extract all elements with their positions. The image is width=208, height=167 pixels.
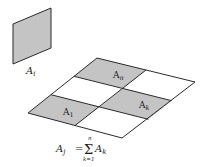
- formula-lower-limit: k=1: [83, 156, 94, 162]
- formula-sum-symbol: Σ: [84, 142, 93, 157]
- formula-upper-limit: n: [88, 135, 92, 141]
- cell-an: [74, 58, 146, 88]
- element-ai-label: Ai: [25, 65, 35, 78]
- formula-rhs: Ak: [94, 143, 106, 156]
- surface-decomposition-diagram: Ai An Ak A1 Aj = Σ n k=1 Ak: [0, 0, 208, 167]
- cell-ak: [100, 88, 172, 119]
- element-ai-patch: [13, 8, 51, 64]
- formula-equals: =: [75, 143, 83, 154]
- formula-lhs: Aj: [55, 143, 66, 156]
